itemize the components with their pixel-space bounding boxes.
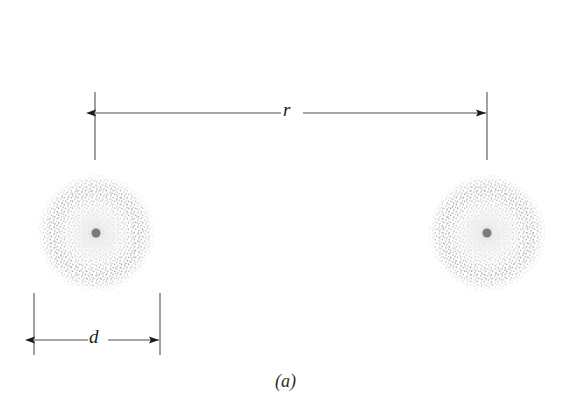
physics-figure-canvas: r d (a) xyxy=(0,0,583,418)
left-sphere-nucleus xyxy=(92,229,101,238)
figure-caption: (a) xyxy=(275,372,296,390)
separation-label-r: r xyxy=(283,100,290,119)
right-charged-sphere xyxy=(429,175,545,291)
separation-dimension xyxy=(95,92,487,160)
diameter-label-d: d xyxy=(89,327,99,346)
right-sphere-nucleus xyxy=(483,229,492,238)
left-charged-sphere xyxy=(38,175,154,291)
figure-vector-layer xyxy=(0,0,583,418)
